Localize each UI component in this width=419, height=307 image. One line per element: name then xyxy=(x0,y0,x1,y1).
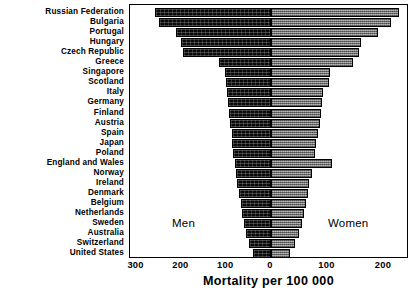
bar-women xyxy=(271,189,308,198)
plot-area: Men Women xyxy=(129,4,408,258)
bar-men xyxy=(236,169,271,178)
bar-men xyxy=(225,68,271,77)
bar-women xyxy=(271,109,321,118)
bar-men xyxy=(181,38,271,47)
country-label: Poland xyxy=(0,148,124,158)
country-label: Singapore xyxy=(0,67,124,77)
bar-women xyxy=(271,149,315,158)
bar-men xyxy=(230,119,271,128)
bar-men xyxy=(237,179,271,188)
country-label: Netherlands xyxy=(0,208,124,218)
bar-row xyxy=(130,149,407,158)
country-label: Switzerland xyxy=(0,238,124,248)
bar-row xyxy=(130,48,407,57)
country-label: Greece xyxy=(0,57,124,67)
country-label: Germany xyxy=(0,97,124,107)
bar-row xyxy=(130,109,407,118)
bar-men xyxy=(176,28,271,37)
bar-women xyxy=(271,229,299,238)
country-label: Russian Federation xyxy=(0,7,124,17)
country-label: Sweden xyxy=(0,218,124,228)
country-label: Japan xyxy=(0,138,124,148)
axis-tick-label: 100 xyxy=(217,260,233,270)
country-label: Finland xyxy=(0,108,124,118)
bar-men xyxy=(228,98,271,107)
category-axis-labels: Russian FederationBulgariaPortugalHungar… xyxy=(0,0,126,262)
country-label: Bulgaria xyxy=(0,17,124,27)
bar-men xyxy=(226,78,271,87)
bar-women xyxy=(271,88,323,97)
bar-row xyxy=(130,8,407,17)
country-label: Austria xyxy=(0,118,124,128)
bar-women xyxy=(271,8,399,17)
bar-row xyxy=(130,199,407,208)
bar-men xyxy=(244,219,271,228)
bar-women xyxy=(271,209,304,218)
bar-men xyxy=(253,249,271,258)
country-label: Denmark xyxy=(0,188,124,198)
bar-men xyxy=(219,58,271,67)
country-label: Scotland xyxy=(0,77,124,87)
bar-women xyxy=(271,28,378,37)
bar-women xyxy=(271,18,391,27)
bar-men xyxy=(232,129,271,138)
bar-men xyxy=(249,239,271,248)
bar-women xyxy=(271,119,320,128)
bar-women xyxy=(271,199,306,208)
bar-row xyxy=(130,139,407,148)
bar-row xyxy=(130,58,407,67)
bar-row xyxy=(130,159,407,168)
axis-title: Mortality per 100 000 xyxy=(129,274,408,288)
bar-men xyxy=(159,18,271,27)
bar-row xyxy=(130,18,407,27)
bar-row xyxy=(130,169,407,178)
bar-women xyxy=(271,58,353,67)
axis-tick-label: 300 xyxy=(127,260,143,270)
country-label: Portugal xyxy=(0,27,124,37)
bar-women xyxy=(271,139,316,148)
mortality-pyramid-chart: Russian FederationBulgariaPortugalHungar… xyxy=(0,0,419,307)
bar-men xyxy=(246,229,271,238)
bar-row xyxy=(130,249,407,258)
bar-women xyxy=(271,169,312,178)
bar-row xyxy=(130,209,407,218)
bar-women xyxy=(271,179,309,188)
country-label: England and Wales xyxy=(0,158,124,168)
bar-row xyxy=(130,229,407,238)
bar-men xyxy=(227,88,271,97)
bar-row xyxy=(130,129,407,138)
bar-men xyxy=(235,159,271,168)
bar-row xyxy=(130,219,407,228)
bar-women xyxy=(271,159,332,168)
bar-women xyxy=(271,48,359,57)
country-label: Italy xyxy=(0,87,124,97)
bar-women xyxy=(271,219,302,228)
bar-row xyxy=(130,119,407,128)
bar-row xyxy=(130,88,407,97)
country-label: Australia xyxy=(0,228,124,238)
country-label: Czech Republic xyxy=(0,47,124,57)
bar-men xyxy=(232,139,271,148)
bar-row xyxy=(130,68,407,77)
country-label: Hungary xyxy=(0,37,124,47)
bar-men xyxy=(183,48,271,57)
bar-row xyxy=(130,38,407,47)
bar-women xyxy=(271,78,329,87)
bar-men xyxy=(155,8,271,17)
bar-men xyxy=(239,189,271,198)
axis-tick-label: 200 xyxy=(172,260,188,270)
country-label: Norway xyxy=(0,168,124,178)
bar-row xyxy=(130,28,407,37)
bar-women xyxy=(271,98,322,107)
axis-tick-label: 200 xyxy=(375,260,391,270)
country-label: Belgium xyxy=(0,198,124,208)
bar-row xyxy=(130,239,407,248)
bar-women xyxy=(271,249,290,258)
bar-women xyxy=(271,239,295,248)
bar-men xyxy=(242,209,271,218)
bar-row xyxy=(130,179,407,188)
bar-women xyxy=(271,129,318,138)
bar-row xyxy=(130,78,407,87)
bar-men xyxy=(233,149,271,158)
country-label: Ireland xyxy=(0,178,124,188)
